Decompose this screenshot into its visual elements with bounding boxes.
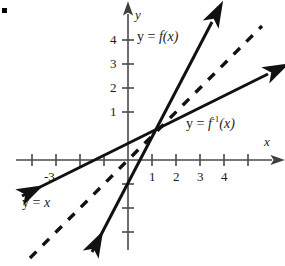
inverse-function-graph-figure: y x 4 3 2 1 -3 1 2 3 4 y = f(x) y = f-1(… (0, 0, 285, 266)
function-curve-label: y = f(x) (137, 30, 178, 44)
inverse-curve-label: y = f-1(x) (186, 115, 235, 131)
inverse-label-lhs: y = (186, 116, 204, 131)
x-tick-label-neg3: -3 (44, 170, 55, 183)
x-tick-label-3: 3 (197, 170, 204, 183)
identity-curve-label: y = x (22, 196, 50, 210)
x-axis-label: x (264, 135, 270, 148)
function-label-lhs: y = (137, 29, 155, 44)
function-label-rhs: f(x) (159, 29, 178, 44)
identity-line-y-equals-x (30, 26, 262, 258)
y-tick-label-3: 3 (110, 57, 117, 70)
x-tick-label-2: 2 (173, 170, 180, 183)
y-axis (122, 14, 134, 250)
y-tick-label-2: 2 (110, 81, 117, 94)
inverse-function-line (22, 74, 268, 196)
y-tick-label-1: 1 (110, 105, 117, 118)
identity-label-rhs: x (44, 195, 50, 210)
x-axis (16, 154, 272, 166)
inverse-label-argument: (x) (219, 116, 235, 131)
y-tick-label-4: 4 (110, 33, 117, 46)
identity-label-lhs: y = (22, 195, 40, 210)
x-tick-label-4: 4 (221, 170, 228, 183)
x-tick-label-1: 1 (149, 170, 156, 183)
y-axis-label: y (135, 8, 141, 21)
